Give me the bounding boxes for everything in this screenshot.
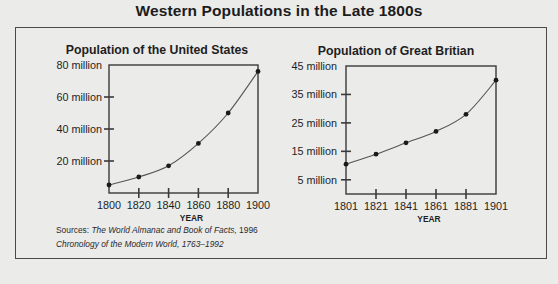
x-tick-label: 1881 [454, 200, 478, 212]
y-tick-label: 20 million [56, 155, 102, 167]
x-tick-label: 1840 [157, 199, 181, 211]
y-tick-label: 45 million [291, 60, 337, 72]
data-point-marker [256, 69, 261, 74]
data-point-marker [464, 112, 469, 117]
sources-line-2: Chronology of the Modern World, 1763–199… [56, 239, 224, 249]
y-tick-label: 40 million [56, 123, 102, 135]
x-tick-label: 1821 [364, 200, 388, 212]
x-tick-label: 1820 [127, 199, 151, 211]
y-tick-label: 25 million [291, 117, 337, 129]
data-point-marker [107, 183, 112, 188]
y-tick-label: 5 million [297, 174, 337, 186]
y-tick-label: 60 million [56, 91, 102, 103]
chart-gb: Population of Great Britian5 million15 m… [291, 44, 508, 224]
chart-title: Population of the United States [66, 43, 249, 57]
series-line [109, 71, 258, 185]
chart-us: Population of the United States20 millio… [56, 43, 270, 223]
series-line [346, 80, 496, 164]
data-point-marker [226, 111, 231, 116]
data-point-marker [374, 152, 379, 157]
data-point-marker [136, 175, 141, 180]
data-point-marker [344, 162, 349, 167]
data-point-marker [196, 141, 201, 146]
x-tick-label: 1800 [97, 199, 121, 211]
sources-prefix: Sources: [56, 225, 91, 235]
y-tick-label: 35 million [291, 88, 337, 100]
y-tick-label: 80 million [56, 59, 102, 71]
data-point-marker [494, 78, 499, 83]
sources-book-title: The World Almanac and Book of Facts, [91, 225, 236, 235]
plot-frame [346, 66, 496, 194]
x-tick-label: 1841 [394, 200, 418, 212]
x-tick-label: 1900 [246, 199, 270, 211]
x-tick-label: 1861 [424, 200, 448, 212]
x-tick-label: 1801 [334, 200, 358, 212]
y-tick-label: 15 million [291, 145, 337, 157]
data-point-marker [404, 140, 409, 145]
sources-second-title: Chronology of the Modern World, 1763–199… [56, 239, 224, 249]
sources-line-1: Sources: The World Almanac and Book of F… [56, 225, 258, 235]
sources-year: 1996 [237, 225, 258, 235]
x-tick-label: 1880 [216, 199, 240, 211]
plot-frame [109, 65, 258, 193]
x-axis-label: YEAR [417, 214, 440, 224]
chart-title: Population of Great Britian [318, 44, 474, 58]
x-tick-label: 1901 [484, 200, 508, 212]
data-point-marker [166, 163, 171, 168]
data-point-marker [434, 129, 439, 134]
x-axis-label: YEAR [180, 213, 203, 223]
x-tick-label: 1860 [186, 199, 210, 211]
